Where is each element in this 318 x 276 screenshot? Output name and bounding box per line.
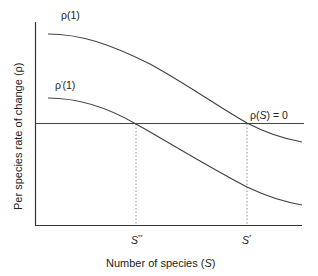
- label-zero-line: ρ(S) = 0: [250, 109, 288, 121]
- species-rate-diagram: ρ(1) ρ′(1) ρ(S) = 0 S** S* Number of spe…: [0, 0, 318, 276]
- curve-rho-1: [48, 34, 302, 142]
- x-axis-label: Number of species (S): [106, 257, 215, 269]
- label-rho-prime-1: ρ′(1): [55, 79, 75, 91]
- label-rho-1: ρ(1): [61, 9, 80, 21]
- tick-s-double-star: S**: [131, 234, 143, 246]
- y-axis-label: Per species rate of change (ρ): [12, 63, 24, 211]
- tick-s-star: S*: [242, 234, 252, 246]
